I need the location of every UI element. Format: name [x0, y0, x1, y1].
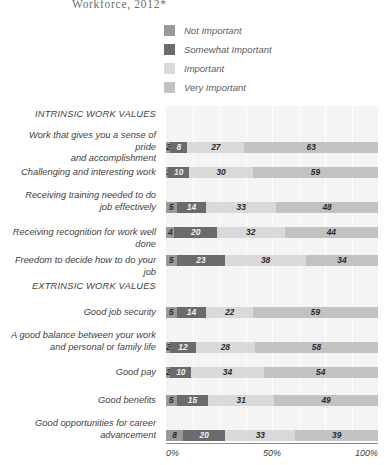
stacked-bar: 5142259 [166, 307, 378, 318]
chart-row: Freedom to decide how to do your job5233… [0, 250, 390, 276]
row-label: Receiving training needed to dojob effec… [6, 190, 156, 213]
row-label: Good benefits [6, 395, 156, 407]
row-label: Receiving recognition for work well done [6, 227, 156, 250]
bar-segment[interactable]: 59 [253, 167, 378, 178]
bar-segment[interactable]: 48 [276, 202, 378, 213]
section-header-row: EXTRINSIC WORK VALUES [0, 278, 390, 304]
bar-segment[interactable]: 5 [166, 307, 177, 318]
bar-segment[interactable]: 15 [177, 395, 209, 406]
bar-segment[interactable]: 27 [187, 142, 244, 153]
bar-segment-value: 5 [166, 395, 177, 406]
axis-tick-label: 100% [355, 448, 378, 458]
chart-row: Good job security5142259 [0, 302, 390, 328]
legend-item[interactable]: Somewhat Important [164, 40, 364, 59]
bar-segment[interactable]: 33 [225, 430, 295, 441]
bar-segment[interactable]: 5 [166, 202, 177, 213]
axis-tick-label: 50% [263, 448, 281, 458]
bar-segment[interactable]: 10 [170, 367, 191, 378]
bar-segment[interactable]: 4 [166, 227, 174, 238]
bar-segment[interactable]: 10 [168, 167, 189, 178]
legend-item-label: Important [184, 63, 224, 74]
row-label-line: Good pay [6, 367, 156, 379]
bar-segment[interactable]: 32 [217, 227, 285, 238]
bar-segment[interactable]: 38 [225, 255, 306, 266]
bar-segment[interactable]: 12 [170, 342, 195, 353]
bar-segment[interactable]: 44 [285, 227, 378, 238]
bar-segment-value: 33 [206, 202, 276, 213]
bar-segment[interactable]: 39 [295, 430, 378, 441]
legend-swatch-icon [164, 63, 175, 74]
row-label-line: Challenging and interesting work [6, 167, 156, 179]
row-label-line: Freedom to decide how to do your job [6, 255, 156, 278]
row-label-line: job effectively [6, 202, 156, 214]
bar-segment-value: 10 [170, 367, 191, 378]
bar-segment[interactable]: 28 [196, 342, 255, 353]
bar-segment-value: 14 [177, 202, 207, 213]
bar-segment-value: 34 [306, 255, 378, 266]
x-axis-labels: 0%50%100% [166, 448, 378, 462]
legend-item[interactable]: Important [164, 59, 364, 78]
chart-row: Good pay2103454 [0, 362, 390, 388]
bar-segment[interactable]: 8 [166, 430, 183, 441]
chart-row: Good benefits5153149 [0, 390, 390, 416]
bar-segment-value: 44 [285, 227, 378, 238]
row-label: Good job security [6, 307, 156, 319]
bar-segment[interactable]: 59 [253, 307, 378, 318]
axis-tick-label: 0% [166, 448, 179, 458]
bar-segment[interactable]: 14 [177, 307, 207, 318]
bar-segment-value: 22 [206, 307, 253, 318]
bar-segment[interactable]: 22 [206, 307, 253, 318]
bar-segment[interactable]: 33 [206, 202, 276, 213]
chart-row: Good opportunities for careeradvancement… [0, 418, 390, 444]
bar-segment-value: 5 [166, 255, 177, 266]
page-title: Workforce, 2012* [72, 0, 332, 10]
stacked-bar: 282763 [166, 142, 378, 153]
bar-segment-value: 4 [166, 227, 174, 238]
bar-segment[interactable]: 49 [274, 395, 378, 406]
bar-segment[interactable]: 14 [177, 202, 207, 213]
bar-segment[interactable]: 30 [189, 167, 253, 178]
bar-segment-value: 59 [253, 307, 378, 318]
row-label-line: Work that gives you a sense of pride [6, 130, 156, 153]
chart-row: A good balance between your workand pers… [0, 330, 390, 356]
bar-segment-value: 63 [244, 142, 378, 153]
bar-segment-value: 32 [217, 227, 285, 238]
row-label-line: A good balance between your work [6, 330, 156, 342]
bar-segment[interactable]: 5 [166, 395, 177, 406]
legend-item[interactable]: Very Important [164, 78, 364, 97]
bar-segment-value: 5 [166, 202, 177, 213]
section-header-label: INTRINSIC WORK VALUES [0, 109, 156, 119]
legend-item-label: Not Important [184, 25, 242, 36]
legend-swatch-icon [164, 44, 175, 55]
bar-segment[interactable]: 34 [191, 367, 263, 378]
bar-segment[interactable]: 34 [306, 255, 378, 266]
stacked-bar: 8203339 [166, 430, 378, 441]
row-label: Good opportunities for careeradvancement [6, 418, 156, 441]
bar-segment-value: 39 [295, 430, 378, 441]
chart-rows: INTRINSIC WORK VALUESWork that gives you… [0, 106, 390, 436]
row-label-line: Good opportunities for career [6, 418, 156, 430]
chart-row: Receiving recognition for work well done… [0, 222, 390, 248]
legend-item[interactable]: Not Important [164, 21, 364, 40]
bar-segment-value: 12 [170, 342, 195, 353]
section-header-row: INTRINSIC WORK VALUES [0, 106, 390, 132]
bar-segment-value: 23 [177, 255, 226, 266]
bar-segment[interactable]: 54 [264, 367, 378, 378]
bar-segment[interactable]: 20 [183, 430, 225, 441]
bar-segment[interactable]: 23 [177, 255, 226, 266]
bar-segment-value: 49 [274, 395, 378, 406]
bar-segment-value: 15 [177, 395, 209, 406]
bar-segment[interactable]: 20 [174, 227, 216, 238]
bar-segment-value: 28 [196, 342, 255, 353]
row-label: Good pay [6, 367, 156, 379]
bar-segment-value: 8 [166, 430, 183, 441]
bar-segment-value: 8 [170, 142, 187, 153]
bar-segment[interactable]: 58 [255, 342, 378, 353]
chart-row: Challenging and interesting work1103059 [0, 162, 390, 188]
stacked-bar: 2122858 [166, 342, 378, 353]
bar-segment[interactable]: 31 [208, 395, 274, 406]
bar-segment[interactable]: 63 [244, 142, 378, 153]
bar-segment[interactable]: 5 [166, 255, 177, 266]
bar-segment-value: 20 [183, 430, 225, 441]
bar-segment[interactable]: 8 [170, 142, 187, 153]
